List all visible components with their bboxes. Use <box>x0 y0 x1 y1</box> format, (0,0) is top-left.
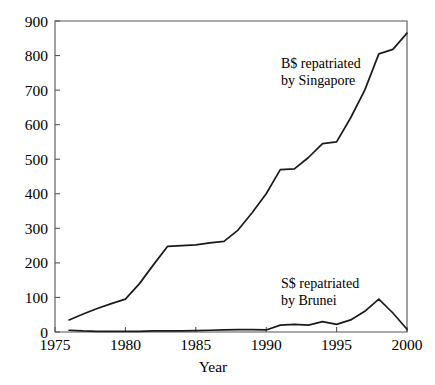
annotation-line: by Singapore <box>281 73 355 88</box>
x-axis-tick-labels: 197519801985199019952000 <box>40 336 423 353</box>
x-tick-label: 1990 <box>251 336 282 353</box>
series-annotations: B$ repatriatedby SingaporeS$ repatriated… <box>281 56 361 308</box>
x-tick-label: 1980 <box>110 336 141 353</box>
annotation-line: B$ repatriated <box>281 56 361 71</box>
y-tick-label: 700 <box>25 82 49 99</box>
y-tick-label: 400 <box>25 185 49 202</box>
y-tick-label: 600 <box>25 116 49 133</box>
x-tick-label: 1995 <box>321 336 352 353</box>
y-axis-tick-labels: 0100200300400500600700800900 <box>25 13 49 341</box>
series-annotation-brunei-label: S$ repatriatedby Brunei <box>281 276 359 308</box>
y-tick-label: 300 <box>25 220 49 237</box>
chart-container: 0100200300400500600700800900 19751980198… <box>0 0 435 385</box>
y-tick-label: 200 <box>25 254 49 271</box>
annotation-line: by Brunei <box>281 293 337 308</box>
line-chart-figure: 0100200300400500600700800900 19751980198… <box>0 0 435 385</box>
x-tick-label: 1975 <box>40 336 71 353</box>
y-axis-ticks <box>55 21 60 332</box>
annotation-line: S$ repatriated <box>281 276 359 291</box>
series-annotation-singapore-label: B$ repatriatedby Singapore <box>281 56 361 88</box>
y-tick-label: 900 <box>25 13 49 30</box>
x-tick-label: 2000 <box>392 336 423 353</box>
series-line <box>69 299 407 331</box>
y-tick-label: 800 <box>25 47 49 64</box>
y-tick-label: 500 <box>25 151 49 168</box>
x-axis-title: Year <box>199 358 228 375</box>
x-tick-label: 1985 <box>180 336 211 353</box>
y-tick-label: 100 <box>25 289 49 306</box>
